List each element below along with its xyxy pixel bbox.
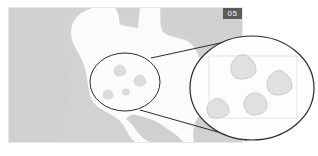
left-gray-lobe [8, 7, 69, 143]
micrograph-image[interactable]: 05 [8, 7, 243, 143]
magnified-particle-2 [267, 71, 292, 95]
figure-panel: 05 [0, 0, 318, 156]
magnified-particle-4 [244, 93, 267, 115]
lower-right-gray-block [193, 113, 243, 143]
panel-index-badge: 05 [223, 8, 242, 19]
micrograph-canvas [8, 7, 243, 143]
